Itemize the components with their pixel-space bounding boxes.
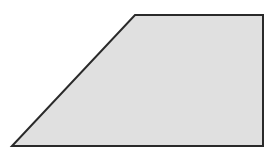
diagram-canvas [0,0,266,156]
trapezoid-shape [12,15,263,146]
